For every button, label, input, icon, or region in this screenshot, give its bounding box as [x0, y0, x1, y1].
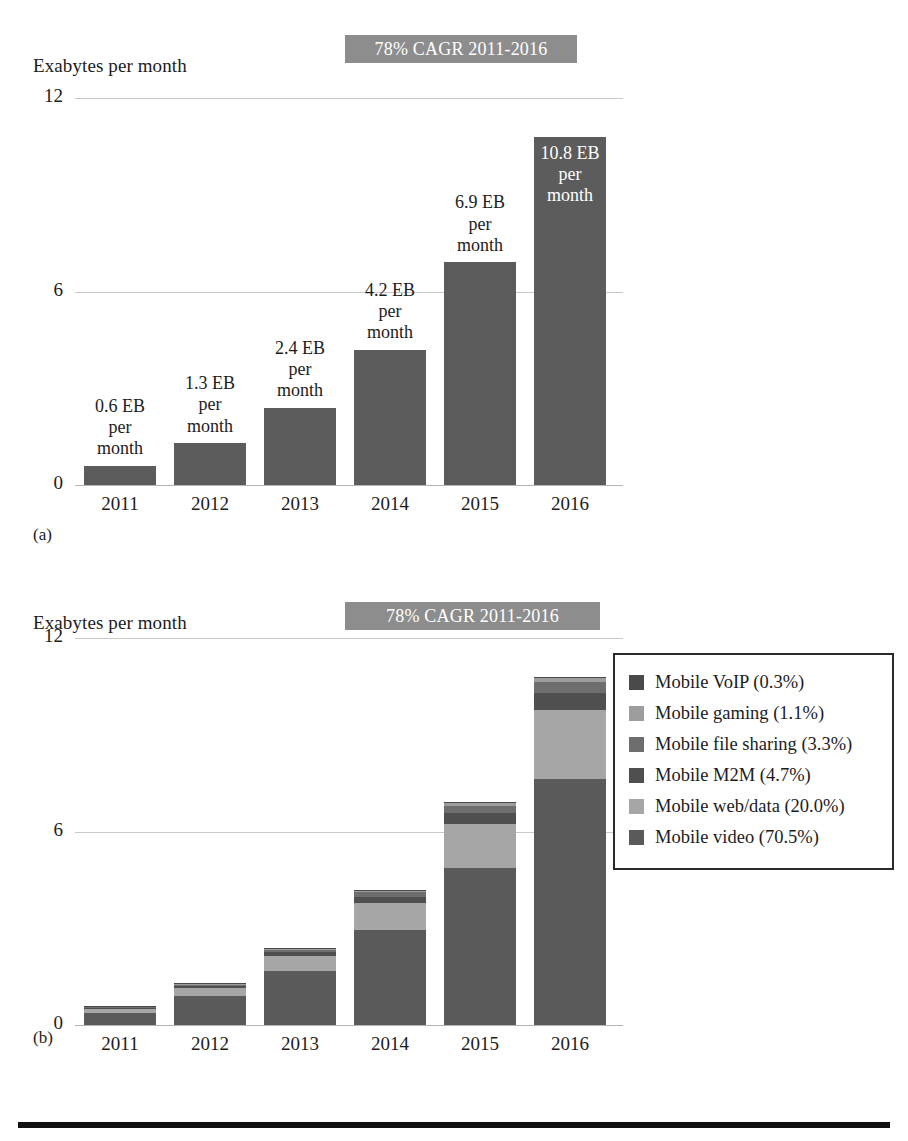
legend-swatch-icon	[629, 675, 644, 690]
legend-item-4[interactable]: Mobile web/data (20.0%)	[629, 791, 876, 822]
y-axis-tick-label: 12	[15, 625, 63, 647]
x-axis-tick-label: 2012	[160, 493, 260, 515]
x-axis-tick-label: 2013	[250, 493, 350, 515]
y-axis-tick-label: 6	[15, 279, 63, 301]
stack-segment	[174, 996, 246, 1025]
legend-item-5[interactable]: Mobile video (70.5%)	[629, 822, 876, 853]
x-axis-tick-label: 2011	[70, 1033, 170, 1055]
legend-swatch-icon	[629, 799, 644, 814]
stacked-bar	[264, 948, 336, 1025]
bar	[174, 443, 246, 485]
stack-segment	[354, 930, 426, 1025]
y-axis-tick-label: 0	[15, 472, 63, 494]
stacked-bar	[174, 983, 246, 1025]
legend-label: Mobile M2M (4.7%)	[655, 765, 811, 786]
x-axis-tick-label: 2013	[250, 1033, 350, 1055]
panel-a-plot-area: 06122011201220132014201520160.6 EB per m…	[0, 0, 908, 560]
legend-label: Mobile gaming (1.1%)	[655, 703, 824, 724]
legend-swatch-icon	[629, 768, 644, 783]
stack-segment	[354, 903, 426, 930]
stack-segment	[264, 956, 336, 971]
stacked-bar	[354, 890, 426, 1025]
legend-label: Mobile VoIP (0.3%)	[655, 672, 804, 693]
panel-b-caption: (b)	[33, 1028, 53, 1048]
legend-item-3[interactable]: Mobile M2M (4.7%)	[629, 760, 876, 791]
bar-value-label: 4.2 EB per month	[335, 280, 445, 344]
stack-segment	[444, 806, 516, 813]
x-axis-tick-label: 2015	[430, 1033, 530, 1055]
legend-label: Mobile file sharing (3.3%)	[655, 734, 852, 755]
legend-item-2[interactable]: Mobile file sharing (3.3%)	[629, 729, 876, 760]
stack-segment	[444, 813, 516, 823]
y-axis-tick-label: 12	[15, 85, 63, 107]
stack-segment	[264, 971, 336, 1025]
stack-segment	[444, 824, 516, 869]
stack-segment	[84, 1013, 156, 1025]
stack-segment	[174, 988, 246, 996]
stacked-bar	[444, 802, 516, 1025]
stack-segment	[534, 710, 606, 780]
axis-baseline	[75, 485, 623, 486]
bottom-divider	[18, 1122, 890, 1128]
axis-baseline	[75, 1025, 623, 1026]
gridline	[75, 638, 623, 639]
chart-legend: Mobile VoIP (0.3%)Mobile gaming (1.1%)Mo…	[613, 653, 894, 870]
x-axis-tick-label: 2011	[70, 493, 170, 515]
panel-a-caption: (a)	[33, 525, 52, 545]
x-axis-tick-label: 2016	[520, 493, 620, 515]
legend-item-1[interactable]: Mobile gaming (1.1%)	[629, 698, 876, 729]
bar-value-label: 2.4 EB per month	[245, 338, 355, 402]
legend-swatch-icon	[629, 737, 644, 752]
x-axis-tick-label: 2016	[520, 1033, 620, 1055]
stack-segment	[534, 682, 606, 694]
legend-label: Mobile web/data (20.0%)	[655, 796, 845, 817]
panel-b: Exabytes per month 78% CAGR 2011-2016 06…	[0, 560, 908, 1080]
bar	[84, 466, 156, 485]
panel-a: Exabytes per month 78% CAGR 2011-2016 06…	[0, 0, 908, 560]
bar	[264, 408, 336, 485]
legend-label: Mobile video (70.5%)	[655, 827, 819, 848]
legend-swatch-icon	[629, 830, 644, 845]
x-axis-tick-label: 2015	[430, 493, 530, 515]
stacked-bar	[534, 677, 606, 1025]
bar	[444, 262, 516, 485]
stacked-bar	[84, 1006, 156, 1025]
legend-swatch-icon	[629, 706, 644, 721]
x-axis-tick-label: 2014	[340, 1033, 440, 1055]
x-axis-tick-label: 2014	[340, 493, 440, 515]
x-axis-tick-label: 2012	[160, 1033, 260, 1055]
stack-segment	[534, 779, 606, 1024]
y-axis-tick-label: 6	[15, 819, 63, 841]
gridline	[75, 98, 623, 99]
bar	[354, 350, 426, 485]
stack-segment	[444, 868, 516, 1025]
legend-item-0[interactable]: Mobile VoIP (0.3%)	[629, 667, 876, 698]
bar-value-label: 10.8 EB per month	[515, 143, 625, 207]
stack-segment	[534, 693, 606, 709]
